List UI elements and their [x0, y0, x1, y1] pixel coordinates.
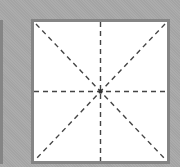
- diagram-canvas: [0, 0, 180, 167]
- grid-square-right: [31, 19, 170, 164]
- guide-lines-right: [34, 22, 167, 161]
- grid-square-left: [0, 20, 3, 164]
- center-dot: [98, 89, 102, 93]
